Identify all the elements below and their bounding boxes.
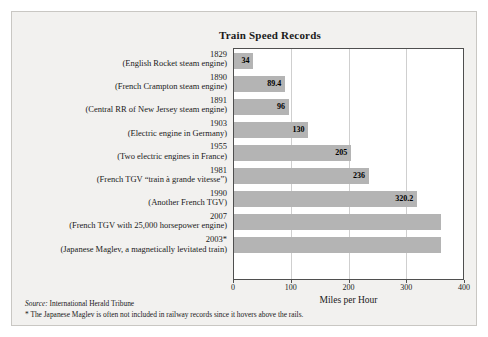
bar-value-label: 89.4 [267, 79, 285, 88]
bar[interactable]: 130 [234, 122, 308, 138]
bar-value-label: 130 [292, 125, 308, 134]
category-label: 1891(Central RR of New Jersey steam engi… [12, 94, 230, 117]
category-label-text: 1981(French TGV “train à grande vitesse”… [97, 166, 227, 185]
bar-value-label: 96 [277, 102, 289, 111]
asterisk-note: * The Japanese Maglev is often not inclu… [25, 309, 465, 320]
bar[interactable]: 34 [234, 53, 253, 69]
category-label: 1903(Electric engine in Germany) [12, 118, 230, 141]
plot-area: 3489.496130205236320.2 [233, 48, 464, 280]
category-description: (Electric engine in Germany) [128, 129, 227, 139]
category-label-text: 1955(Two electric engines in France) [117, 143, 227, 162]
x-axis: 0100200300400 [233, 280, 464, 292]
bar-value-label: 236 [353, 171, 369, 180]
category-axis-labels: 1829(English Rocket steam engine)1890(Fr… [12, 48, 230, 280]
bar-row: 320.2 [234, 187, 463, 210]
bar-row: 205 [234, 141, 463, 164]
category-description: (Another French TGV) [148, 199, 227, 209]
bar-row: 96 [234, 95, 463, 118]
bar-row: 89.4 [234, 72, 463, 95]
category-label: 1829(English Rocket steam engine) [12, 48, 230, 71]
bar-row: 130 [234, 118, 463, 141]
chart-figure: Train Speed Records 1829(English Rocket … [11, 11, 477, 326]
x-axis-tick-label: 300 [400, 283, 412, 292]
category-label-text: 1990(Another French TGV) [148, 189, 227, 208]
category-description: (French TGV with 25,000 horsepower engin… [69, 222, 227, 232]
category-label-text: 1891(Central RR of New Jersey steam engi… [85, 96, 227, 115]
bar[interactable] [234, 237, 441, 253]
category-label: 2007(French TGV with 25,000 horsepower e… [12, 210, 230, 233]
category-description: (Japanese Maglev, a magnetically levitat… [60, 245, 227, 255]
bar-row: 236 [234, 164, 463, 187]
category-description: (Two electric engines in France) [117, 152, 227, 162]
bar-row [234, 233, 463, 256]
footnotes: Source: International Herald Tribune * T… [25, 298, 465, 321]
category-label-text: 1829(English Rocket steam engine) [122, 50, 227, 69]
x-axis-tick-label: 0 [231, 283, 235, 292]
bar[interactable]: 236 [234, 168, 369, 184]
bar[interactable]: 96 [234, 99, 289, 115]
bar-row [234, 210, 463, 233]
source-note: Source: International Herald Tribune [25, 298, 465, 309]
bar[interactable] [234, 214, 441, 230]
bar-row: 34 [234, 49, 463, 72]
x-axis-tick-label: 400 [458, 283, 470, 292]
bar-rows: 3489.496130205236320.2 [234, 49, 463, 279]
category-label-text: 2003*(Japanese Maglev, a magnetically le… [60, 236, 227, 255]
category-label-text: 2007(French TGV with 25,000 horsepower e… [69, 212, 227, 231]
category-label-text: 1890(French Crampton steam engine) [115, 73, 227, 92]
source-label: Source: [25, 299, 48, 308]
bar-value-label: 34 [241, 56, 253, 65]
category-description: (French TGV “train à grande vitesse”) [97, 176, 227, 186]
category-description: (French Crampton steam engine) [115, 83, 227, 93]
chart-title: Train Speed Records [12, 29, 476, 41]
category-description: (Central RR of New Jersey steam engine) [85, 106, 227, 116]
bar[interactable]: 89.4 [234, 76, 285, 92]
category-label-text: 1903(Electric engine in Germany) [128, 120, 227, 139]
x-axis-tick-label: 100 [285, 283, 297, 292]
bar-value-label: 320.2 [395, 194, 417, 203]
category-label: 1981(French TGV “train à grande vitesse”… [12, 164, 230, 187]
source-value: International Herald Tribune [48, 299, 134, 308]
bar-value-label: 205 [335, 148, 351, 157]
category-label: 1990(Another French TGV) [12, 187, 230, 210]
category-label: 1955(Two electric engines in France) [12, 141, 230, 164]
category-label: 1890(French Crampton steam engine) [12, 71, 230, 94]
category-description: (English Rocket steam engine) [122, 60, 227, 70]
category-label: 2003*(Japanese Maglev, a magnetically le… [12, 234, 230, 257]
bar[interactable]: 205 [234, 145, 351, 161]
x-axis-tick-label: 200 [343, 283, 355, 292]
bar[interactable]: 320.2 [234, 191, 417, 207]
